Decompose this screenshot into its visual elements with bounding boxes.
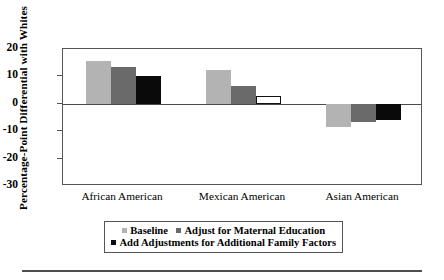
bar [136,76,161,103]
chart-legend: BaselineAdjust for Maternal Education Ad… [104,221,343,253]
legend-row-secondary: Add Adjustments for Additional Family Fa… [109,237,338,249]
bar [111,67,136,104]
legend-label: Baseline [130,225,168,237]
bar [376,104,401,120]
y-axis-title: Percentage-Point Differential with White… [17,6,29,210]
y-axis-tick-label: -10 [0,124,18,136]
legend-swatch-icon [111,240,116,245]
x-axis-category-label: African American [81,190,162,202]
legend-item: Adjust for Maternal Education [176,225,325,237]
legend-item: Add Adjustments for Additional Family Fa… [111,237,336,249]
bar [86,61,111,104]
y-axis-tick-label: 0 [0,97,18,109]
x-axis-category-label: Mexican American [199,190,285,202]
bar [206,70,231,104]
legend-label: Add Adjustments for Additional Family Fa… [119,237,336,249]
plot-area [62,48,422,185]
legend-row-primary: BaselineAdjust for Maternal Education [109,225,338,237]
y-axis-tick-label: 20 [0,42,18,54]
y-axis-tick-label: -30 [0,179,18,191]
bar [326,104,351,127]
bar [351,104,376,123]
legend-swatch-icon [176,228,181,233]
legend-item: Baseline [122,225,168,237]
footer-rule [22,270,422,272]
bar [231,86,256,104]
legend-swatch-icon [122,228,127,233]
legend-label: Adjust for Maternal Education [184,225,325,237]
y-axis-tick-label: 10 [0,70,18,82]
x-axis-category-label: Asian American [325,190,398,202]
y-axis-tick-label: -20 [0,152,18,164]
bar [256,96,281,104]
chart-figure: Percentage-Point Differential with White… [0,0,444,280]
